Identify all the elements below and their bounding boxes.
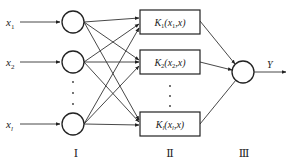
kernel-label-l: Kl(xl,x): [155, 119, 185, 131]
ellipsis-dot: [72, 81, 74, 83]
ellipsis-dot: [169, 95, 171, 97]
input-label-2: x2: [5, 56, 15, 71]
output-label: Y: [267, 59, 274, 70]
input-node-1: [62, 11, 84, 33]
ellipsis-dot: [72, 103, 74, 105]
kernel-label-2: K2(x2,x): [153, 57, 186, 69]
input-node-2: [62, 51, 84, 73]
output-node: [232, 61, 254, 83]
input-node-l: [62, 113, 84, 135]
input-label-l: xl: [5, 118, 13, 133]
input-label-1: x1: [5, 16, 15, 31]
input-layer: [62, 11, 84, 135]
ellipsis-dot: [72, 92, 74, 94]
layer-label-3: Ⅲ: [239, 147, 250, 159]
kernel-layer: [140, 10, 200, 136]
input-arrows: [20, 22, 60, 124]
connections-input-to-kernel: [84, 18, 139, 125]
network-diagram: x1 x2 xl K1(x1,x) K2(x2,x) Kl(xl,x) Y Ⅰ …: [0, 0, 289, 166]
ellipsis-dot: [169, 105, 171, 107]
layer-label-2: Ⅱ: [166, 147, 173, 159]
connections-kernel-to-output: [200, 21, 236, 124]
kernel-label-1: K1(x1,x): [153, 17, 186, 29]
ellipsis-dot: [169, 85, 171, 87]
layer-label-1: Ⅰ: [74, 147, 78, 159]
